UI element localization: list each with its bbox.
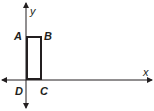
vertex-c-label: C	[40, 85, 49, 97]
coordinate-diagram: y x A B C D	[0, 0, 154, 111]
vertex-a-label: A	[13, 30, 22, 42]
vertex-d-label: D	[15, 85, 23, 97]
vertex-b-label: B	[44, 30, 52, 42]
rectangle-abcd	[27, 37, 41, 79]
x-axis-label: x	[142, 66, 149, 78]
y-axis-label: y	[29, 5, 37, 17]
